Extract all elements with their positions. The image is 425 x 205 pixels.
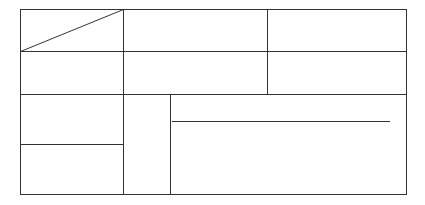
diagonal-header-line [21, 10, 124, 52]
outer-border [21, 10, 407, 195]
table-diagram [0, 0, 425, 205]
